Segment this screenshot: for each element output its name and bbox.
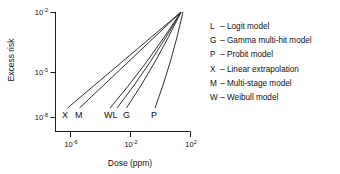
legend-dash: –: [218, 50, 227, 59]
legend-item-probit: P – Probit model: [210, 50, 340, 64]
legend-label-weibull: Weibull model: [227, 93, 278, 102]
curve-multi-stage: [80, 12, 182, 108]
x-axis-title: Dose (ppm): [88, 158, 172, 168]
legend-dash: –: [218, 65, 227, 74]
legend-item-logit: L – Logit model: [210, 22, 340, 36]
legend-key-l: L: [210, 22, 218, 31]
legend-item-multistage: M – Multi-stage model: [210, 79, 340, 93]
legend-dash: –: [218, 93, 227, 102]
legend-key-g: G: [210, 36, 218, 45]
curve-label-g: G: [123, 110, 130, 120]
y-tick-label-1: 10-2: [22, 8, 48, 17]
curve-label-wl: WL: [104, 110, 118, 120]
legend-key-x: X: [210, 65, 218, 74]
legend-item-weibull: W – Weibull model: [210, 93, 340, 107]
y-tick-label-3: 10-8: [22, 113, 48, 122]
legend-label-probit: Probit model: [227, 50, 273, 59]
x-tick-label-3: 102: [176, 140, 206, 149]
legend-item-gamma: G – Gamma multi-hit model: [210, 36, 340, 50]
curve-label-x: X: [62, 110, 68, 120]
legend-key-w: W: [210, 93, 218, 102]
x-tick-label-2: 10-2: [116, 140, 146, 149]
curve-label-m: M: [75, 110, 83, 120]
legend-dash: –: [218, 22, 227, 31]
legend-label-logit: Logit model: [227, 22, 269, 31]
legend-key-m: M: [210, 79, 218, 88]
chart-figure: 10-2 10-5 10-8 10-6 10-2 102 Excess risk…: [0, 0, 340, 174]
curve-label-p: P: [151, 110, 157, 120]
curve-probit: [155, 12, 183, 108]
legend-label-gamma: Gamma multi-hit model: [227, 36, 312, 45]
legend-label-multistage: Multi-stage model: [227, 79, 292, 88]
legend-dash: –: [218, 36, 227, 45]
legend: L – Logit model G – Gamma multi-hit mode…: [210, 22, 340, 107]
y-tick-label-2: 10-5: [22, 68, 48, 77]
legend-label-linear: Linear extrapolation: [227, 65, 299, 74]
y-axis-title: Excess risk: [6, 30, 16, 90]
legend-item-linear: X – Linear extrapolation: [210, 65, 340, 79]
curve-linear-extrapolation: [68, 12, 182, 108]
legend-key-p: P: [210, 50, 218, 59]
x-tick-label-1: 10-6: [56, 140, 86, 149]
legend-dash: –: [218, 79, 227, 88]
